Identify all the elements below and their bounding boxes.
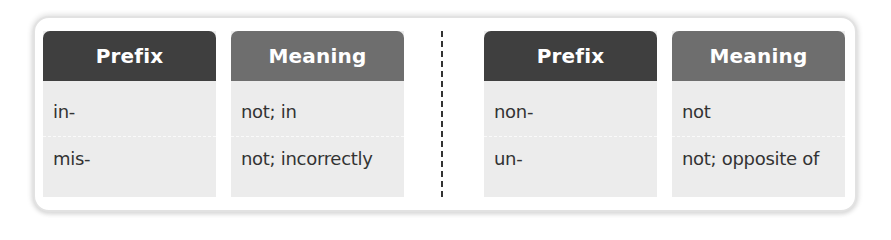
left-meaning-column: Meaning not; in not; incorrectly [231, 31, 404, 197]
prefix-header: Prefix [484, 31, 657, 81]
meaning-header: Meaning [672, 31, 845, 81]
left-prefix-column: Prefix in- mis- [43, 31, 216, 197]
prefix-cell: mis- [43, 137, 216, 183]
prefix-cell: un- [484, 137, 657, 183]
meaning-header: Meaning [231, 31, 404, 81]
meaning-cell: not; opposite of [672, 137, 845, 183]
prefix-header: Prefix [43, 31, 216, 81]
right-prefix-column: Prefix non- un- [484, 31, 657, 197]
prefix-cell: non- [484, 81, 657, 137]
meaning-cell: not; in [231, 81, 404, 137]
meaning-cell: not; incorrectly [231, 137, 404, 183]
dashed-divider [441, 31, 443, 197]
meaning-cell: not [672, 81, 845, 137]
right-meaning-column: Meaning not not; opposite of [672, 31, 845, 197]
prefix-cell: in- [43, 81, 216, 137]
